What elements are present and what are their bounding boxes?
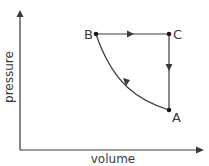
arrow-right-icon (127, 31, 134, 38)
process-a-to-b (96, 34, 169, 110)
point-b: B (84, 27, 98, 42)
point-a-label: A (172, 110, 181, 125)
process-b-to-c (96, 31, 169, 38)
arrow-up-left-icon (123, 78, 130, 86)
point-a: A (167, 108, 181, 125)
pv-diagram: pressure volume B C A (0, 0, 209, 166)
x-axis-label: volume (91, 152, 135, 166)
process-c-to-a (166, 34, 173, 110)
point-c-label: C (173, 27, 182, 42)
y-axis-arrow-icon (17, 10, 24, 17)
y-axis-label: pressure (2, 51, 16, 103)
point-b-label: B (84, 27, 93, 42)
x-axis-arrow-icon (196, 147, 204, 154)
arrow-down-icon (166, 64, 173, 71)
